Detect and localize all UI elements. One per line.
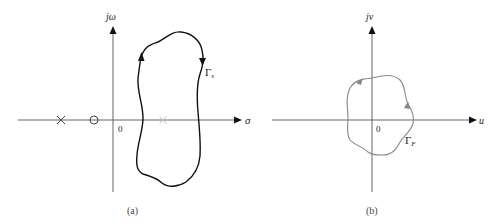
origin-label-a: 0 [118,124,123,134]
contour-arrow-up-icon [138,52,145,61]
u-axis-arrow-icon [469,117,477,124]
contour-gamma-f [347,76,414,155]
contour-label-gamma-f: ΓF [405,134,416,148]
contour-gamma-s [137,32,203,186]
nyquist-mapping-figure: σ jω 0 Γs (a) u [0,0,489,222]
panel-a-s-plane: σ jω 0 Γs (a) [18,11,251,217]
contour-label-gamma-s: Γs [205,66,214,80]
origin-label-b: 0 [376,124,381,134]
jv-axis-arrow-icon [369,26,376,34]
jomega-axis-label: jω [104,11,116,22]
contour-arrow-down-icon [199,58,206,66]
caption-b: (b) [366,205,378,217]
jomega-axis-arrow-icon [110,26,117,34]
sigma-axis-label: σ [245,114,251,126]
sigma-axis-arrow-icon [234,117,242,124]
u-axis-label: u [479,115,484,126]
jv-axis-label: jv [364,11,374,22]
panel-b-f-plane: u jv 0 ΓF (b) [272,11,484,217]
caption-a: (a) [127,205,138,217]
